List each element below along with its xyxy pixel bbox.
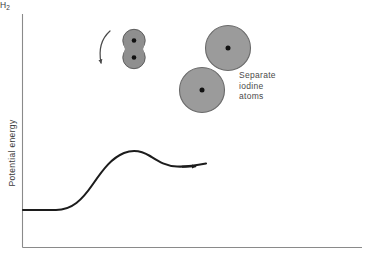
iodine-atom-upper-icon (206, 26, 251, 71)
h2-lower-nucleus (132, 55, 137, 60)
h2-label-subscript: 2 (6, 4, 10, 11)
h2-upper-nucleus (132, 38, 137, 43)
h2-molecule-icon (123, 29, 145, 68)
h2-lower-sphere-fill (124, 44, 145, 65)
y-axis-label: Potential energy (7, 113, 17, 193)
curved-motion-arrow (100, 31, 110, 63)
diagram-canvas (0, 0, 371, 256)
potential-energy-curve (23, 151, 206, 210)
iodine-lower-nucleus (200, 88, 205, 93)
potential-energy-diagram: Potential energy H2 Separate iodine atom… (0, 0, 371, 256)
iodine-atom-lower-icon (180, 68, 225, 113)
curve-direction-arrow (182, 166, 196, 167)
iodine-upper-nucleus (226, 46, 231, 51)
iodine-atoms-label: Separate iodine atoms (239, 70, 276, 102)
